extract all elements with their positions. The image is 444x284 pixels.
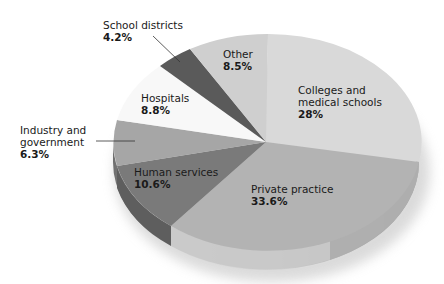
label-pct: 33.6% bbox=[251, 195, 333, 207]
label-name: School districts bbox=[103, 19, 183, 31]
label-private-practice: Private practice 33.6% bbox=[251, 183, 333, 207]
label-name: Private practice bbox=[251, 183, 333, 195]
label-name: Hospitals bbox=[141, 92, 189, 104]
label-name-line1: Colleges and bbox=[298, 84, 382, 96]
label-school-districts: School districts 4.2% bbox=[103, 19, 183, 43]
label-industry: Industry and government 6.3% bbox=[20, 124, 86, 160]
label-pct: 10.6% bbox=[134, 178, 218, 190]
label-pct: 4.2% bbox=[103, 31, 183, 43]
label-name-line1: Industry and bbox=[20, 124, 86, 136]
label-pct: 28% bbox=[298, 108, 382, 120]
label-colleges: Colleges and medical schools 28% bbox=[298, 84, 382, 120]
label-name: Human services bbox=[134, 166, 218, 178]
pie-slices bbox=[113, 34, 421, 251]
label-human-services: Human services 10.6% bbox=[134, 166, 218, 190]
label-pct: 8.5% bbox=[223, 60, 253, 72]
label-pct: 8.8% bbox=[141, 104, 189, 116]
label-name: Other bbox=[223, 48, 253, 60]
label-pct: 6.3% bbox=[20, 148, 86, 160]
label-name-line2: government bbox=[20, 136, 86, 148]
label-hospitals: Hospitals 8.8% bbox=[141, 92, 189, 116]
label-name-line2: medical schools bbox=[298, 96, 382, 108]
label-other: Other 8.5% bbox=[223, 48, 253, 72]
